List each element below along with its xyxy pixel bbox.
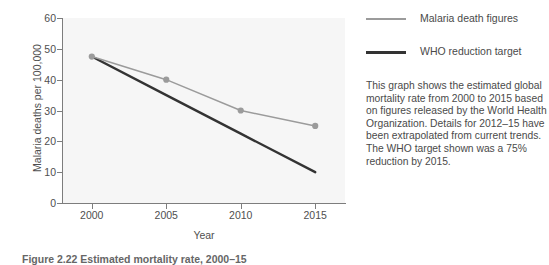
description-paragraph-2: The WHO target shown was a 75% reduction… [366, 143, 549, 168]
series-data-point [312, 123, 318, 129]
series-line [92, 57, 315, 173]
legend-item-malaria-death-figures: Malaria death figures [366, 12, 549, 26]
description-paragraph-1: This graph shows the estimated global mo… [366, 80, 549, 143]
legend-item-who-reduction-target: WHO reduction target [366, 45, 549, 59]
y-axis-title: Malaria deaths per 100,000 [31, 8, 43, 208]
x-axis-title: Year [62, 229, 346, 241]
description-text: This graph shows the estimated global mo… [366, 80, 549, 168]
figure-caption: Figure 2.22 Estimated mortality rate, 20… [22, 253, 352, 265]
series-malaria-death-figures [89, 53, 319, 129]
series-data-point [238, 107, 244, 113]
side-panel: Malaria death figures WHO reduction targ… [362, 0, 549, 265]
legend-line-swatch-actual [366, 18, 406, 20]
series-data-point [89, 53, 95, 59]
legend-line-swatch-target [366, 51, 406, 54]
series-data-point [163, 77, 169, 83]
legend-label-actual: Malaria death figures [420, 12, 518, 24]
chart-area: 0102030405060 2000200520102015 Year Mala… [0, 0, 352, 248]
series-who-reduction-target [92, 57, 315, 173]
figure-malaria-mortality: 0102030405060 2000200520102015 Year Mala… [0, 0, 549, 265]
legend-label-target: WHO reduction target [420, 45, 522, 57]
